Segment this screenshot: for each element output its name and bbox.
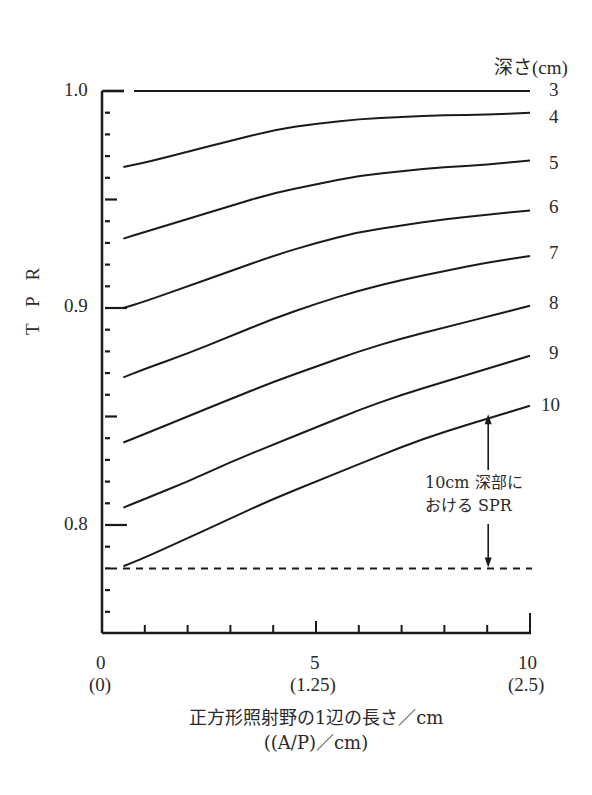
x-tick-sub-label-0: (0) xyxy=(89,674,111,696)
spr-annotation-line-1: 10cm 深部に xyxy=(425,471,523,494)
legend-title: 深さ(cm) xyxy=(494,52,568,79)
spr-annotation: 10cm 深部に おける SPR xyxy=(423,470,525,518)
x-axis-title: 正方形照射野の1辺の長さ／cm xyxy=(0,703,592,729)
depth-label-6: 6 xyxy=(549,196,559,218)
x-tick-label-0: 0 xyxy=(96,652,106,674)
x-axis-subtitle: ((A/P)／cm) xyxy=(0,728,592,754)
curve-depth-7 xyxy=(123,256,530,378)
x-tick-label-10: 10 xyxy=(518,652,537,674)
x-tick-label-5: 5 xyxy=(310,652,320,674)
y-tick-label-0-9: 0.9 xyxy=(64,295,88,317)
y-tick-label-1-0: 1.0 xyxy=(64,79,88,101)
curve-depth-5 xyxy=(123,160,530,238)
x-tick-sub-label-1-25: (1.25) xyxy=(290,674,336,696)
depth-label-7: 7 xyxy=(549,242,559,264)
depth-label-8: 8 xyxy=(549,292,559,314)
depth-label-4: 4 xyxy=(549,106,559,128)
depth-label-5: 5 xyxy=(549,152,559,174)
y-axis-title: T P R xyxy=(22,262,44,335)
depth-label-9: 9 xyxy=(549,342,559,364)
depth-label-3: 3 xyxy=(549,79,559,101)
curve-depth-6 xyxy=(123,210,530,308)
curve-depth-4 xyxy=(123,113,530,167)
y-tick-label-0-8: 0.8 xyxy=(64,513,88,535)
depth-label-10: 10 xyxy=(541,394,560,416)
arrowhead-down xyxy=(485,557,492,567)
spr-annotation-line-2: おける SPR xyxy=(425,494,523,517)
x-tick-sub-label-2-5: (2.5) xyxy=(508,674,544,696)
